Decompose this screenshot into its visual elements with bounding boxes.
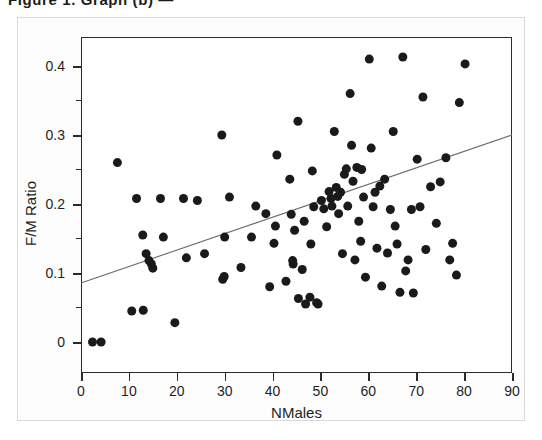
y-tick-label-0: 0 [57,334,65,350]
y-tick-minor-0.15 [76,238,81,239]
y-tick-0.3 [73,135,81,137]
y-tick-minor-0.25 [76,169,81,170]
x-tick-label-20: 20 [169,383,185,399]
x-tick-60 [368,373,370,381]
y-tick-minor-0.35 [76,100,81,101]
x-tick-label-50: 50 [313,383,329,399]
x-tick-20 [177,373,179,381]
y-tick-0.1 [73,273,81,275]
x-tick-80 [464,373,466,381]
scanned-page: Figure 1. Graph (b) — 0 0.1 0.2 0.3 0.4 … [0,0,542,440]
x-tick-label-90: 90 [504,383,520,399]
y-tick-minor-0.05 [76,307,81,308]
x-tick-10 [129,373,131,381]
x-tick-label-70: 70 [408,383,424,399]
x-tick-50 [320,373,322,381]
y-tick-label-0.1: 0.1 [46,265,65,281]
scatter-chart: 0 0.1 0.2 0.3 0.4 0 10 20 30 40 50 60 70… [0,0,542,440]
y-tick-0 [73,342,81,344]
x-tick-90 [512,373,514,381]
x-tick-label-0: 0 [77,383,85,399]
y-tick-label-0.4: 0.4 [46,58,65,74]
y-axis-title: F/M Ratio [22,164,39,264]
plot-area-frame [81,37,512,373]
x-tick-40 [273,373,275,381]
x-tick-label-10: 10 [121,383,137,399]
x-tick-30 [225,373,227,381]
x-tick-label-40: 40 [265,383,281,399]
x-tick-label-60: 60 [361,383,377,399]
x-tick-0 [81,373,83,381]
y-tick-0.4 [73,66,81,68]
x-tick-70 [416,373,418,381]
x-tick-label-80: 80 [456,383,472,399]
y-tick-0.2 [73,204,81,206]
x-tick-label-30: 30 [217,383,233,399]
x-axis-title: NMales [81,404,512,421]
y-tick-label-0.3: 0.3 [46,127,65,143]
y-tick-label-0.2: 0.2 [46,196,65,212]
